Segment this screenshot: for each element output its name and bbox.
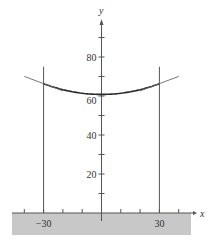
x-axis-arrow-icon — [193, 211, 197, 215]
y-tick-label: 60 — [87, 95, 97, 106]
axes — [12, 19, 197, 221]
x-axis-label: x — [199, 208, 205, 219]
y-axis-arrow-icon — [100, 19, 104, 25]
y-tick-label: 80 — [87, 52, 97, 63]
y-tick-label: 40 — [87, 130, 97, 141]
x-tick-label: 30 — [154, 218, 164, 229]
y-tick-label: 20 — [87, 169, 97, 180]
tick-labels: 30−3020406080 — [36, 52, 165, 230]
y-axis-label: y — [98, 5, 104, 16]
x-tick-label: −30 — [36, 218, 52, 229]
chart: 30−3020406080 x y — [0, 0, 216, 248]
